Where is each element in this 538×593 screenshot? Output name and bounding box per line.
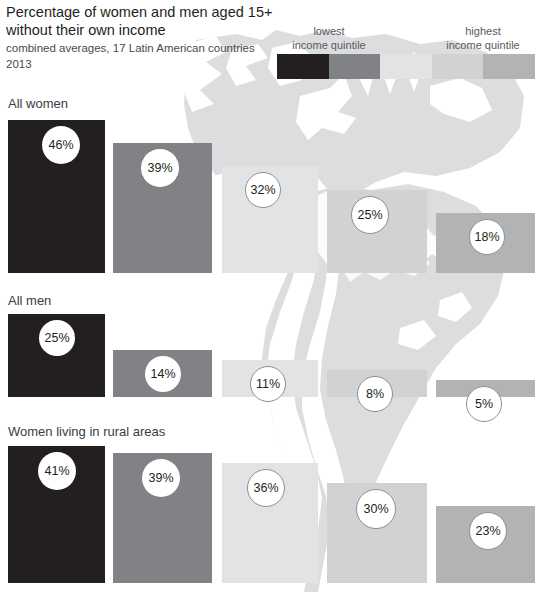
value-bubble-1-q5: 18% xyxy=(469,219,505,255)
legend-label-highest-line2: income quintile xyxy=(431,38,535,52)
legend-label-highest-line1: highest xyxy=(431,24,535,38)
legend-swatch-quintile-5 xyxy=(483,54,535,79)
page-year: 2013 xyxy=(6,57,306,73)
value-bubble-3-q1: 41% xyxy=(38,452,76,490)
value-bubble-2-q5: 5% xyxy=(466,386,502,422)
value-bubble-1-q4: 25% xyxy=(351,196,389,234)
page-subtitle: combined averages, 17 Latin American cou… xyxy=(6,41,306,57)
value-bubble-1-q2: 39% xyxy=(141,149,179,187)
value-bubble-3-q5: 23% xyxy=(469,512,507,550)
page-title-line1: Percentage of women and men aged 15+ xyxy=(6,4,306,22)
value-bubble-3-q4: 30% xyxy=(356,489,396,529)
value-bubble-2-q1: 25% xyxy=(39,320,75,356)
section-label-2: All men xyxy=(8,293,51,309)
legend-label-lowest-line1: lowest xyxy=(277,24,381,38)
legend-label-lowest-line2: income quintile xyxy=(277,38,381,52)
legend-swatches xyxy=(277,54,535,79)
value-bubble-3-q2: 39% xyxy=(142,459,180,497)
value-bubble-3-q3: 36% xyxy=(247,469,285,507)
section-label-1: All women xyxy=(8,96,68,112)
header: Percentage of women and men aged 15+ wit… xyxy=(6,4,306,72)
legend-labels: lowest income quintile highest income qu… xyxy=(277,24,535,54)
page-title-line2: without their own income xyxy=(6,22,306,40)
legend-swatch-quintile-2 xyxy=(329,54,381,79)
value-bubble-1-q1: 46% xyxy=(42,126,80,164)
section-label-3: Women living in rural areas xyxy=(8,424,165,440)
legend-swatch-quintile-1 xyxy=(277,54,329,79)
legend-label-lowest: lowest income quintile xyxy=(277,24,381,52)
value-bubble-1-q3: 32% xyxy=(245,172,281,208)
legend-label-highest: highest income quintile xyxy=(431,24,535,52)
value-bubble-2-q3: 11% xyxy=(250,366,286,402)
infographic-root: Percentage of women and men aged 15+ wit… xyxy=(0,0,538,593)
legend-swatch-quintile-3 xyxy=(380,54,432,79)
legend: lowest income quintile highest income qu… xyxy=(277,24,535,79)
legend-swatch-quintile-4 xyxy=(432,54,484,79)
value-bubble-2-q2: 14% xyxy=(145,356,181,392)
value-bubble-2-q4: 8% xyxy=(357,376,393,412)
